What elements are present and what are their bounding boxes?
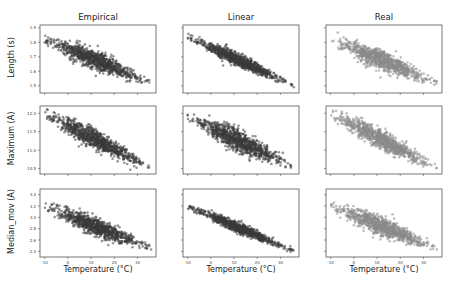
x-tick-label: 20: [398, 260, 404, 265]
y-tick-label: 12.0: [27, 111, 36, 116]
y-tick-label: 2.4: [30, 249, 37, 254]
y-tick-label: 1.5: [30, 83, 37, 88]
y-tick-label: 3.4: [30, 192, 37, 197]
x-tick-label: -10: [184, 260, 191, 265]
scatter-plot-area: 1.51.61.71.81.910.511.011.512.02.42.62.8…: [0, 0, 465, 288]
x-tick-label: 30: [135, 260, 141, 265]
x-tick-label: 10: [374, 260, 380, 265]
y-tick-label: 2.6: [30, 238, 37, 243]
y-tick-label: 11.5: [27, 129, 36, 134]
scatter-grid-figure: Empirical Linear Real Length (s) Maximum…: [0, 0, 465, 288]
x-tick-label: 0: [210, 260, 213, 265]
x-tick-label: 10: [88, 260, 94, 265]
scatter-panel: -100102030: [181, 189, 299, 265]
x-tick-label: -10: [41, 260, 48, 265]
y-tick-label: 10.5: [27, 166, 36, 171]
y-tick-label: 2.8: [30, 226, 37, 231]
x-tick-label: 20: [255, 260, 261, 265]
scatter-panel: [324, 106, 442, 176]
y-tick-label: 1.7: [30, 54, 37, 59]
x-tick-label: -10: [327, 260, 334, 265]
scatter-panel: -100102030: [324, 189, 442, 265]
y-tick-label: 1.9: [30, 25, 37, 30]
y-tick-label: 3.2: [30, 204, 37, 209]
scatter-panel: [181, 106, 299, 176]
y-tick-label: 3.0: [30, 215, 37, 220]
x-tick-label: 30: [421, 260, 427, 265]
x-tick-label: 0: [353, 260, 356, 265]
y-tick-label: 1.6: [30, 69, 37, 74]
scatter-panel: 2.42.62.83.03.23.4-100102030: [30, 189, 156, 265]
x-tick-label: 0: [67, 260, 70, 265]
scatter-panel: [181, 25, 299, 95]
scatter-panel: 1.51.61.71.81.9: [30, 25, 156, 95]
x-tick-label: 10: [231, 260, 237, 265]
x-tick-label: 30: [278, 260, 284, 265]
x-tick-label: 20: [112, 260, 118, 265]
y-tick-label: 1.8: [30, 40, 37, 45]
scatter-panel: [324, 25, 442, 95]
scatter-panel: 10.511.011.512.0: [27, 106, 156, 176]
y-tick-label: 11.0: [27, 148, 36, 153]
